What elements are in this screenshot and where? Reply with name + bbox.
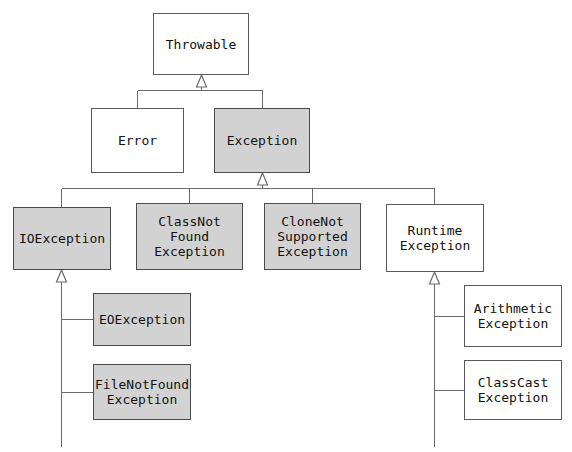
class-node-error[interactable]: Error [91, 108, 184, 173]
class-node-runtimeexception[interactable]: Runtime Exception [386, 204, 484, 272]
class-node-label: Error [116, 133, 159, 148]
class-node-clonenotsupportedexception[interactable]: CloneNot Supported Exception [264, 203, 361, 270]
class-node-label: EOException [97, 312, 187, 327]
class-node-filenotfoundexception[interactable]: FileNotFound Exception [93, 364, 191, 420]
inheritance-arrowhead-to-exception [258, 173, 268, 185]
class-node-label: ClassNot Found Exception [152, 214, 226, 259]
class-node-throwable[interactable]: Throwable [153, 13, 249, 75]
class-node-label: FileNotFound Exception [93, 377, 191, 407]
class-node-classnotfoundexception[interactable]: ClassNot Found Exception [136, 203, 243, 270]
class-node-label: IOException [17, 231, 107, 246]
class-node-label: Throwable [164, 37, 238, 52]
inheritance-arrowhead-to-throwable [197, 75, 207, 87]
class-node-classcastexception[interactable]: ClassCast Exception [464, 360, 562, 420]
class-node-label: Runtime Exception [398, 223, 472, 253]
class-node-label: CloneNot Supported Exception [275, 214, 349, 259]
class-node-eofexception[interactable]: EOException [93, 293, 191, 346]
inheritance-arrowhead-to-ioexception [57, 270, 67, 282]
class-node-ioexception[interactable]: IOException [13, 207, 111, 270]
class-node-label: Exception [225, 133, 299, 148]
class-hierarchy-diagram: Throwable Error Exception IOException Cl… [0, 0, 572, 452]
class-node-arithmeticexception[interactable]: Arithmetic Exception [464, 285, 562, 347]
class-node-label: ClassCast Exception [476, 375, 550, 405]
class-node-exception[interactable]: Exception [214, 108, 310, 173]
class-node-label: Arithmetic Exception [472, 301, 554, 331]
inheritance-arrowhead-to-runtimeexception [430, 272, 440, 284]
